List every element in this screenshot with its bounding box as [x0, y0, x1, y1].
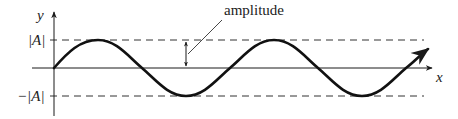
x-axis-label: x [435, 69, 443, 85]
amplitude-annotation-label: amplitude [224, 2, 284, 18]
annotation-leader-line [188, 20, 222, 54]
upper-level-label: |A| [28, 32, 45, 48]
y-axis-label: y [35, 7, 44, 23]
sine-wave-diagram: y x |A| −|A| amplitude [0, 0, 458, 119]
lower-level-label: −|A| [17, 88, 45, 104]
